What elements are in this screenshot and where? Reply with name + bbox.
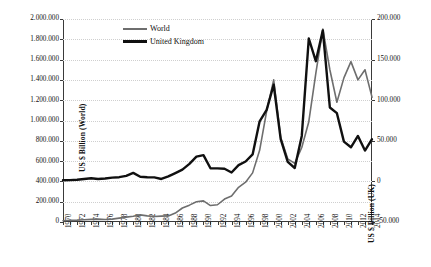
right-axis-tick-mark xyxy=(372,100,375,101)
x-axis-tick-label: 1994 xyxy=(235,214,242,228)
x-axis-tick-label: 1984 xyxy=(164,214,171,228)
x-axis-tick-label: 1990 xyxy=(206,214,213,228)
x-axis-tick-mark xyxy=(302,222,303,225)
x-axis-tick-label: 1992 xyxy=(221,214,228,228)
right-axis-tick-mark xyxy=(372,19,375,20)
x-axis-tick-label: 1986 xyxy=(178,214,185,228)
x-axis-tick-mark xyxy=(274,222,275,225)
x-axis-tick-label: 1978 xyxy=(122,214,129,228)
x-axis-tick-label: 2008 xyxy=(333,214,340,228)
right-axis-tick-label: 50.000 xyxy=(377,137,397,144)
x-axis-tick-mark xyxy=(105,222,106,225)
legend-label-world: World xyxy=(150,25,170,33)
left-axis-tick-mark xyxy=(60,80,63,81)
x-axis-tick-label: 1972 xyxy=(80,214,87,228)
grid-line xyxy=(63,202,372,203)
left-axis-tick-label: 400.000 xyxy=(3,178,59,185)
left-axis-tick-label: 1.600.000 xyxy=(3,56,59,63)
grid-line xyxy=(63,39,372,40)
x-axis-tick-mark xyxy=(77,222,78,225)
left-axis-tick-mark xyxy=(60,121,63,122)
legend-swatch-uk-icon xyxy=(123,40,147,43)
x-axis-tick-mark xyxy=(63,222,64,225)
left-axis-tick-mark xyxy=(60,39,63,40)
x-axis-tick-label: 1988 xyxy=(192,214,199,228)
right-axis-tick-label: 100.000 xyxy=(377,97,400,104)
left-axis-tick-mark xyxy=(60,161,63,162)
left-axis-tick-label: 1.800.000 xyxy=(3,36,59,43)
right-axis-title: US $ Billion (UK) xyxy=(367,184,376,243)
right-axis-tick-mark xyxy=(372,141,375,142)
left-axis-tick-label: 200.000 xyxy=(3,198,59,205)
right-axis-tick-label: 0 xyxy=(377,178,381,185)
left-axis-tick-mark xyxy=(60,141,63,142)
x-axis-tick-mark xyxy=(358,222,359,225)
left-axis-tick-mark xyxy=(60,19,63,20)
legend-swatch-world-icon xyxy=(123,28,147,30)
x-axis-tick-label: 1998 xyxy=(263,214,270,228)
left-axis-tick-label: 600.000 xyxy=(3,158,59,165)
x-axis-tick-mark xyxy=(218,222,219,225)
grid-line xyxy=(63,19,372,20)
left-axis-tick-mark xyxy=(60,60,63,61)
legend-label-united-kingdom: United Kingdom xyxy=(150,38,204,46)
right-axis-tick-label: 200.000 xyxy=(377,15,400,22)
x-axis-tick-label: 1982 xyxy=(150,214,157,228)
left-axis-tick-mark xyxy=(60,100,63,101)
left-axis-tick-label: 1.400.000 xyxy=(3,76,59,83)
grid-line xyxy=(63,141,372,142)
x-axis-tick-mark xyxy=(246,222,247,225)
left-axis-tick-label: 800.000 xyxy=(3,137,59,144)
left-axis-tick-label: 1.000.000 xyxy=(3,117,59,124)
grid-line xyxy=(63,100,372,101)
x-axis-tick-mark xyxy=(232,222,233,225)
legend-item-united-kingdom: United Kingdom xyxy=(123,35,204,48)
right-axis-tick-mark xyxy=(372,60,375,61)
x-axis-tick-label: 1970 xyxy=(66,214,73,228)
x-axis-tick-label: 1974 xyxy=(94,214,101,228)
x-axis-tick-label: 1976 xyxy=(108,214,115,228)
right-axis-tick-mark xyxy=(372,181,375,182)
left-axis-tick-label: 2.000.000 xyxy=(3,15,59,22)
left-axis-tick-label: 0 xyxy=(3,218,59,225)
grid-line xyxy=(63,60,372,61)
x-axis-tick-mark xyxy=(330,222,331,225)
grid-line xyxy=(63,181,372,182)
x-axis-tick-label: 2000 xyxy=(277,214,284,228)
x-axis-tick-label: 2006 xyxy=(319,214,326,228)
left-axis-tick-mark xyxy=(60,202,63,203)
x-axis-tick-label: 2014 xyxy=(375,214,382,228)
fdi-dual-axis-line-chart: 0200.000400.000600.000800.0001.000.0001.… xyxy=(0,0,431,267)
chart-legend: World United Kingdom xyxy=(123,22,204,48)
left-axis-title: US $ Billion (World) xyxy=(78,104,87,172)
grid-line xyxy=(63,80,372,81)
right-axis-tick-label: 150.000 xyxy=(377,56,400,63)
x-axis-tick-label: 2004 xyxy=(305,214,312,228)
grid-line xyxy=(63,161,372,162)
x-axis-tick-label: 2002 xyxy=(291,214,298,228)
x-axis-tick-mark xyxy=(91,222,92,225)
x-axis-tick-label: 2010 xyxy=(347,214,354,228)
left-axis-tick-label: 1.200.000 xyxy=(3,97,59,104)
legend-item-world: World xyxy=(123,22,204,35)
x-axis-tick-mark xyxy=(316,222,317,225)
x-axis-tick-mark xyxy=(260,222,261,225)
x-axis-tick-mark xyxy=(344,222,345,225)
grid-line xyxy=(63,121,372,122)
x-axis-tick-label: 1996 xyxy=(249,214,256,228)
x-axis-tick-mark xyxy=(288,222,289,225)
left-axis-tick-mark xyxy=(60,181,63,182)
x-axis-tick-label: 1980 xyxy=(136,214,143,228)
